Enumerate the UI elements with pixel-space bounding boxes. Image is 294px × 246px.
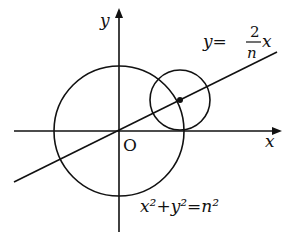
x-axis-label: x: [265, 131, 275, 151]
origin-label: O: [123, 135, 137, 155]
diagram-canvas: y x O y= 2 n x x²+y²=n²: [0, 0, 294, 246]
line-eq-lhs: y=: [202, 31, 227, 51]
line-eq-numerator: 2: [250, 23, 260, 41]
y-arrow-icon: [115, 8, 123, 18]
circle-equation: x²+y²=n²: [140, 196, 219, 216]
line-eq-var: x: [262, 31, 272, 51]
y-axis-label: y: [99, 10, 110, 30]
line-eq-denominator: n: [247, 44, 257, 62]
center-point: [177, 97, 183, 103]
